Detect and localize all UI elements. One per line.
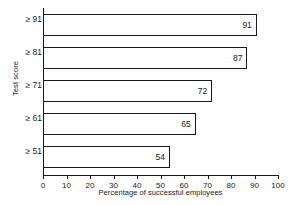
- y-axis-tick-labels: ≥ 91 ≥ 81 ≥ 71 ≥ 61 ≥ 51: [4, 0, 42, 175]
- x-tick-7: [208, 175, 209, 179]
- bar-value-label-0: 91: [242, 21, 251, 30]
- bar-value-label-3: 65: [181, 120, 190, 129]
- x-tick-8: [231, 175, 232, 179]
- y-tick-label-2: ≥ 71: [8, 80, 42, 90]
- x-tick-5: [161, 175, 162, 179]
- x-axis-title: Percentage of successful employees: [43, 188, 278, 197]
- bar-3[interactable]: 65: [43, 113, 196, 135]
- bar-value-label-2: 72: [198, 87, 207, 96]
- bar-value-label-4: 54: [155, 153, 164, 162]
- bar-0[interactable]: 91: [43, 14, 257, 36]
- y-tick-label-3: ≥ 61: [8, 113, 42, 123]
- bar-2[interactable]: 72: [43, 80, 212, 102]
- x-tick-10: [278, 175, 279, 179]
- plot-area: 91 87 72 65 54 0102030405060708090100: [43, 8, 278, 175]
- x-tick-0: [43, 175, 44, 179]
- x-tick-1: [67, 175, 68, 179]
- bar-value-label-1: 87: [233, 54, 242, 63]
- bar-chart: Test score ≥ 91 ≥ 81 ≥ 71 ≥ 61 ≥ 51 91 8…: [0, 0, 297, 205]
- x-tick-6: [184, 175, 185, 179]
- x-tick-4: [137, 175, 138, 179]
- bar-4[interactable]: 54: [43, 146, 170, 168]
- y-tick-label-0: ≥ 91: [8, 14, 42, 24]
- y-tick-label-1: ≥ 81: [8, 47, 42, 57]
- x-tick-2: [90, 175, 91, 179]
- x-tick-9: [255, 175, 256, 179]
- x-tick-3: [114, 175, 115, 179]
- bar-1[interactable]: 87: [43, 47, 247, 69]
- y-tick-label-4: ≥ 51: [8, 146, 42, 156]
